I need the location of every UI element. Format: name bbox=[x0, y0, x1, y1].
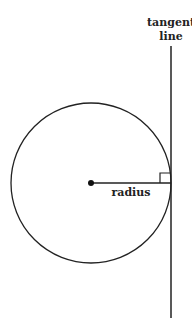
right-angle-marker bbox=[160, 173, 171, 183]
tangent-label-line1: tangent bbox=[147, 16, 192, 29]
radius-label: radius bbox=[112, 186, 151, 199]
tangent-diagram: tangent line radius bbox=[0, 0, 192, 328]
tangent-label-line2: line bbox=[159, 30, 182, 43]
center-point bbox=[88, 180, 94, 186]
